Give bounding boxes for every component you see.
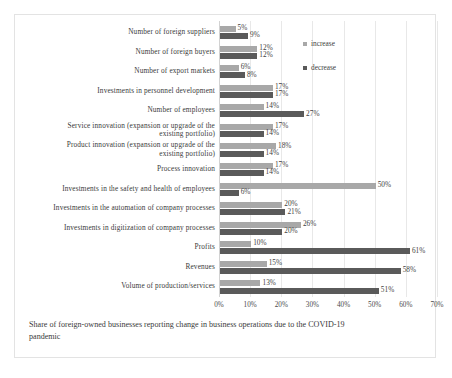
bar-value-label: 18% xyxy=(278,142,291,150)
bar-value-label: 15% xyxy=(269,259,282,267)
bar-value-label: 5% xyxy=(238,24,248,32)
gridline-0 xyxy=(219,21,220,297)
category-label: Investments in digitization of company p… xyxy=(64,224,215,233)
bar-decrease xyxy=(220,170,264,176)
bar-value-label: 58% xyxy=(403,266,416,274)
bar-increase xyxy=(220,46,257,52)
bar-value-label: 27% xyxy=(306,110,319,118)
category-label: Investments in the safety and health of … xyxy=(62,185,215,194)
bar-increase xyxy=(220,280,260,286)
bar-value-label: 12% xyxy=(259,51,272,59)
bar-increase xyxy=(220,85,273,91)
x-tick-label: 30% xyxy=(306,301,319,309)
bar-value-label: 6% xyxy=(241,188,251,196)
x-tick-label: 50% xyxy=(368,301,381,309)
chart-legend: increase decrease xyxy=(303,39,383,87)
bar-increase xyxy=(220,65,239,71)
bar-value-label: 10% xyxy=(253,239,266,247)
category-axis-labels: Number of foreign suppliersNumber of for… xyxy=(15,15,218,315)
gridline-60 xyxy=(406,21,407,297)
bar-value-label: 51% xyxy=(381,286,394,294)
category-label: Investments in personnel development xyxy=(97,87,215,96)
category-label: Volume of production/services xyxy=(121,282,215,291)
bar-increase xyxy=(220,202,282,208)
category-label: Number of employees xyxy=(147,106,215,115)
bar-increase xyxy=(220,261,267,267)
bar-decrease xyxy=(220,209,285,215)
legend-item-decrease: decrease xyxy=(303,63,383,72)
bar-value-label: 8% xyxy=(247,71,257,79)
category-label: Number of foreign suppliers xyxy=(128,28,215,37)
gridline-20 xyxy=(281,21,282,297)
bar-decrease xyxy=(220,53,257,59)
bar-value-label: 14% xyxy=(266,149,279,157)
bar-increase xyxy=(220,241,251,247)
legend-label-increase: increase xyxy=(311,39,335,48)
bar-value-label: 13% xyxy=(262,279,275,287)
bar-decrease xyxy=(220,72,245,78)
category-label: Process innovation xyxy=(157,165,215,174)
bar-value-label: 14% xyxy=(266,102,279,110)
category-label: Profits xyxy=(195,243,215,252)
category-label: Revenues xyxy=(185,263,215,272)
bar-value-label: 20% xyxy=(284,227,297,235)
bar-decrease xyxy=(220,288,379,294)
category-label: Service innovation (expansion or upgrade… xyxy=(68,122,216,139)
x-tick-label: 10% xyxy=(244,301,257,309)
bar-decrease xyxy=(220,248,410,254)
bar-value-label: 61% xyxy=(412,247,425,255)
category-label: Number of foreign buyers xyxy=(136,48,216,57)
bar-decrease xyxy=(220,111,304,117)
bar-value-label: 21% xyxy=(287,208,300,216)
bar-increase xyxy=(220,104,264,110)
x-tick-label: 0% xyxy=(214,301,224,309)
legend-swatch-decrease-icon xyxy=(303,66,307,70)
legend-swatch-increase-icon xyxy=(303,42,307,46)
legend-label-decrease: decrease xyxy=(311,63,336,72)
category-label: Product innovation (expansion or upgrade… xyxy=(67,141,215,158)
bar-value-label: 26% xyxy=(303,220,316,228)
bar-increase xyxy=(220,26,236,32)
bar-decrease xyxy=(220,131,264,137)
bar-decrease xyxy=(220,268,401,274)
category-label: Investments in the automation of company… xyxy=(53,204,215,213)
chart-plot-area: Number of foreign suppliersNumber of for… xyxy=(15,15,437,315)
x-tick-label: 70% xyxy=(430,301,443,309)
bar-value-label: 14% xyxy=(266,129,279,137)
bar-decrease xyxy=(220,151,264,157)
gridline-70 xyxy=(437,21,438,297)
bar-value-label: 50% xyxy=(378,181,391,189)
bar-decrease xyxy=(220,229,282,235)
x-tick-label: 20% xyxy=(275,301,288,309)
bar-value-label: 17% xyxy=(275,90,288,98)
bar-value-label: 9% xyxy=(250,31,260,39)
bar-decrease xyxy=(220,33,248,39)
legend-item-increase: increase xyxy=(303,39,383,48)
bar-decrease xyxy=(220,92,273,98)
bar-decrease xyxy=(220,190,239,196)
bar-value-label: 14% xyxy=(266,168,279,176)
x-tick-label: 60% xyxy=(399,301,412,309)
figure-caption: Share of foreign-owned businesses report… xyxy=(29,319,359,343)
chart-figure: Number of foreign suppliersNumber of for… xyxy=(14,14,436,358)
x-axis: 0%10%20%30%40%50%60%70% xyxy=(219,297,437,315)
category-label: Number of export markets xyxy=(134,67,215,76)
x-tick-label: 40% xyxy=(337,301,350,309)
